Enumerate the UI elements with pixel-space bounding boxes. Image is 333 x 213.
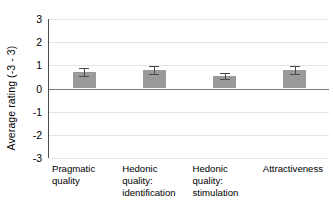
y-tick-label: -3 [33, 153, 42, 164]
error-bar-cap-upper [290, 66, 300, 67]
y-tick-label: 2 [36, 37, 42, 48]
error-bar-line [295, 66, 296, 74]
bar-chart-figure: Average rating (-3 - 3) 3210-1-2-3 Pragm… [0, 0, 333, 213]
error-bar-cap-upper [220, 73, 230, 74]
y-axis-title: Average rating (-3 - 3) [0, 0, 22, 195]
y-tick-label: -1 [33, 106, 42, 117]
x-axis-category-labels: PragmaticqualityHedonicquality:identific… [48, 163, 329, 211]
error-bar-cap-upper [79, 68, 89, 69]
x-category-label: Attractiveness [263, 163, 333, 175]
y-tick-label: 1 [36, 60, 42, 71]
y-tick-label: -2 [33, 130, 42, 141]
error-bar-cap-lower [220, 79, 230, 80]
y-tick-label: 0 [36, 83, 42, 94]
plot-area [48, 19, 329, 158]
error-bar-line [154, 66, 155, 74]
x-category-label-line: quality: [193, 175, 279, 187]
y-axis-title-text: Average rating (-3 - 3) [5, 45, 17, 150]
y-tick-label: 3 [36, 14, 42, 25]
gridline [49, 158, 329, 159]
y-axis-tick-labels: 3210-1-2-3 [22, 19, 46, 158]
x-category-label-line: stimulation [193, 187, 279, 199]
error-bar-cap-upper [149, 66, 159, 67]
error-bar-cap-lower [149, 74, 159, 75]
x-category-label-line: Attractiveness [263, 163, 333, 175]
error-bar-cap-lower [79, 76, 89, 77]
zero-baseline [49, 89, 329, 90]
error-bar-cap-lower [290, 74, 300, 75]
error-bar-line [84, 68, 85, 76]
